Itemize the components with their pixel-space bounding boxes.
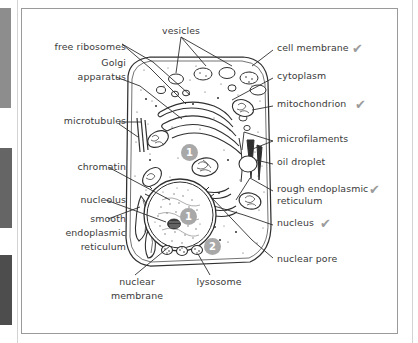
label-mitochondrion: mitochondrion	[277, 98, 346, 110]
mitochondrion-check-icon: ✔	[355, 98, 368, 111]
screenshot-root: free ribosomes Golgi apparatus microtubu…	[0, 0, 418, 343]
cell-membrane-check-icon: ✔	[352, 42, 365, 55]
nucleolus	[168, 219, 181, 229]
label-smooth-er-line2: endoplasmic	[30, 227, 126, 239]
label-cell-membrane: cell membrane	[277, 42, 349, 54]
label-smooth-er-line3: reticulum	[30, 241, 126, 253]
label-rough-er-line1: rough endoplasmic	[277, 183, 368, 195]
oil-droplet	[239, 156, 257, 172]
marker-2-bottom[interactable]: 2	[204, 238, 221, 255]
label-cytoplasm: cytoplasm	[277, 70, 326, 82]
label-microfilaments: microfilaments	[277, 133, 348, 145]
nucleus-check-icon: ✔	[320, 217, 333, 230]
marker-1-top[interactable]: 1	[181, 144, 198, 161]
label-chromatin: chromatin	[30, 161, 126, 173]
rough-er-check-icon: ✔	[369, 183, 382, 196]
label-vesicles: vesicles	[148, 25, 214, 37]
label-nuclear-membrane-line2: membrane	[98, 290, 176, 302]
label-smooth-er-line1: smooth	[30, 213, 126, 225]
label-nucleus: nucleus	[277, 217, 314, 229]
label-nuclear-pore: nuclear pore	[277, 253, 337, 265]
label-nuclear-membrane-line1: nuclear	[105, 276, 169, 288]
label-oil-droplet: oil droplet	[277, 156, 325, 168]
label-golgi-apparatus-line1: Golgi	[30, 57, 126, 69]
label-rough-er-line2: reticulum	[277, 195, 322, 207]
label-free-ribosomes: free ribosomes	[30, 41, 126, 53]
lysosome	[162, 246, 203, 256]
label-golgi-apparatus-line2: apparatus	[30, 71, 126, 83]
label-microtubules: microtubules	[30, 115, 126, 127]
label-nucleolus: nucleolus	[30, 194, 126, 206]
marker-1-nucleus[interactable]: 1	[180, 208, 197, 225]
label-lysosome: lysosome	[186, 276, 252, 288]
